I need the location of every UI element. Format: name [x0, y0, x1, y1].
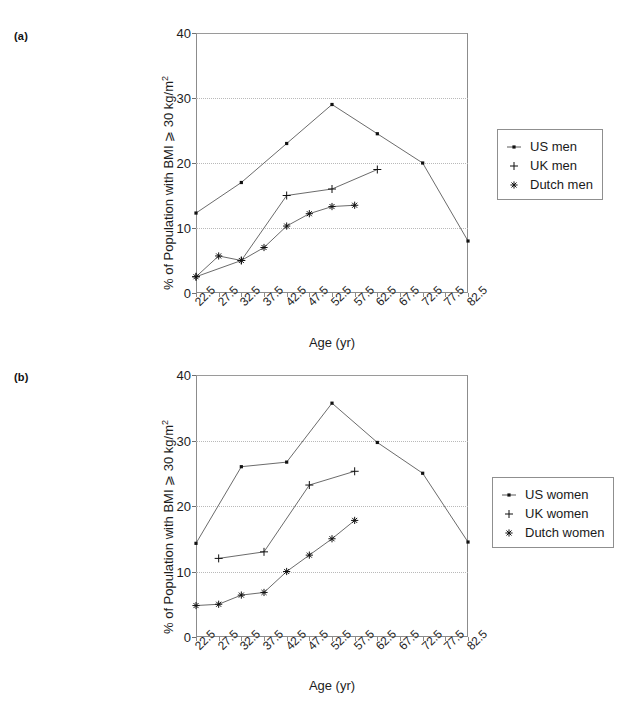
marker-asterisk	[238, 591, 245, 598]
marker-dot	[376, 132, 379, 135]
marker-asterisk	[283, 568, 290, 575]
y-axis-title-text-b: % of Population with BMI ⩾ 30 kg/m	[161, 425, 176, 634]
marker-dot	[376, 441, 379, 444]
marker-asterisk	[306, 210, 313, 217]
legend-label: US women	[525, 487, 589, 502]
series-line	[196, 520, 355, 605]
x-axis-title-a: Age (yr)	[196, 335, 468, 350]
marker-asterisk	[351, 517, 358, 524]
legend-key	[505, 140, 525, 154]
legend-marker-plus	[505, 159, 525, 173]
series-us-women	[194, 402, 469, 545]
y-tick-label-30: 30	[177, 91, 191, 106]
y-axis-title-text-a: % of Population with BMI ⩾ 30 kg/m	[161, 81, 176, 290]
y-tick-label-30: 30	[177, 433, 191, 448]
marker-dot	[194, 211, 197, 214]
marker-asterisk	[192, 602, 199, 609]
legend-marker-dot	[505, 140, 525, 154]
marker-asterisk	[510, 181, 517, 188]
marker-asterisk	[215, 252, 222, 259]
marker-asterisk	[351, 202, 358, 209]
y-tick-label-0: 0	[184, 630, 191, 645]
series-line	[196, 403, 468, 543]
marker-asterisk	[283, 222, 290, 229]
y-tick-label-0: 0	[184, 286, 191, 301]
series-dutch-women	[192, 517, 358, 609]
marker-asterisk	[306, 552, 313, 559]
marker-plus	[305, 481, 313, 489]
marker-dot	[194, 542, 197, 545]
marker-dot	[330, 402, 333, 405]
series-dutch-men	[192, 202, 358, 281]
marker-plus	[215, 554, 223, 562]
series-layer-b	[196, 375, 468, 637]
series-line	[196, 105, 468, 242]
legend-label: Dutch women	[525, 525, 604, 540]
legend-item-dutch-women[interactable]: Dutch women	[500, 523, 604, 542]
y-tick-label-10: 10	[177, 221, 191, 236]
legend-b: US womenUK womenDutch women	[492, 477, 614, 548]
legend-item-uk-men[interactable]: UK men	[505, 156, 593, 175]
legend-label: UK men	[530, 158, 577, 173]
figure-panel-b: (b) 010203040 22.527.532.537.542.547.552…	[0, 360, 626, 705]
y-axis-title-a: % of Population with BMI ⩾ 30 kg/m2	[160, 76, 176, 290]
legend-label: UK women	[525, 506, 589, 521]
legend-a: US menUK menDutch men	[497, 129, 603, 200]
legend-key	[500, 488, 520, 502]
y-tick-label-40: 40	[177, 26, 191, 41]
legend-key	[500, 526, 520, 540]
series-uk-women	[215, 467, 359, 562]
series-line	[196, 205, 355, 277]
legend-key	[500, 507, 520, 521]
legend-label: US men	[530, 139, 577, 154]
legend-key	[505, 178, 525, 192]
marker-dot	[466, 239, 469, 242]
marker-dot	[507, 493, 510, 496]
marker-plus	[260, 548, 268, 556]
y-tick-label-20: 20	[177, 156, 191, 171]
marker-plus	[351, 467, 359, 475]
marker-plus	[510, 162, 518, 170]
legend-item-us-women[interactable]: US women	[500, 485, 604, 504]
marker-asterisk	[328, 535, 335, 542]
series-us-men	[194, 103, 469, 243]
marker-plus	[283, 192, 291, 200]
plot-area-a: 010203040 22.527.532.537.542.547.552.557…	[196, 33, 468, 293]
legend-marker-plus	[500, 507, 520, 521]
legend-marker-asterisk	[505, 178, 525, 192]
legend-item-uk-women[interactable]: UK women	[500, 504, 604, 523]
legend-key	[505, 159, 525, 173]
marker-dot	[330, 103, 333, 106]
panel-a-label: (a)	[14, 30, 28, 42]
marker-dot	[421, 472, 424, 475]
marker-dot	[285, 461, 288, 464]
legend-item-us-men[interactable]: US men	[505, 137, 593, 156]
series-layer-a	[196, 33, 468, 293]
legend-marker-dot	[500, 488, 520, 502]
series-line	[219, 471, 355, 558]
y-axis-title-b: % of Population with BMI ⩾ 30 kg/m2	[160, 420, 176, 634]
plot-area-b: 010203040 22.527.532.537.542.547.552.557…	[196, 375, 468, 637]
marker-dot	[240, 465, 243, 468]
marker-asterisk	[238, 257, 245, 264]
marker-dot	[421, 161, 424, 164]
y-tick-label-20: 20	[177, 499, 191, 514]
marker-plus	[373, 166, 381, 174]
marker-dot	[512, 145, 515, 148]
marker-asterisk	[328, 203, 335, 210]
marker-plus	[328, 185, 336, 193]
legend-item-dutch-men[interactable]: Dutch men	[505, 175, 593, 194]
legend-label: Dutch men	[530, 177, 593, 192]
marker-asterisk	[215, 601, 222, 608]
marker-dot	[285, 142, 288, 145]
y-axis-title-exponent-b: 2	[160, 420, 170, 425]
marker-plus	[505, 510, 513, 518]
y-tick-label-40: 40	[177, 368, 191, 383]
x-axis-title-b: Age (yr)	[196, 678, 468, 693]
marker-dot	[466, 540, 469, 543]
figure-panel-a: (a) 010203040 22.527.532.537.542.547.552…	[0, 0, 626, 360]
legend-marker-asterisk	[500, 526, 520, 540]
y-axis-title-exponent-a: 2	[160, 76, 170, 81]
marker-asterisk	[505, 529, 512, 536]
y-tick-label-10: 10	[177, 564, 191, 579]
